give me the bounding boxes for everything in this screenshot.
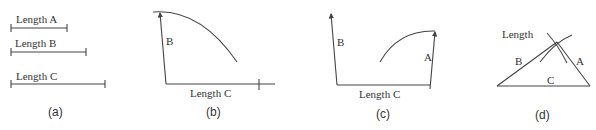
label-a: A [424, 51, 432, 63]
caption-b: (b) [206, 105, 221, 119]
panel-d: Length B C A (d) [497, 28, 590, 122]
caption-d: (d) [535, 108, 550, 122]
label-c: C [547, 74, 554, 86]
segment-length-a: Length A [11, 13, 67, 32]
label-b: B [337, 36, 344, 48]
label-length-b: Length B [15, 37, 56, 49]
side-b-line [160, 13, 166, 84]
label-length-a: Length A [16, 13, 57, 25]
panel-a: Length A Length B Length C (a) [11, 13, 105, 119]
triangle-construction-diagram: Length A Length B Length C (a) B Length … [0, 0, 596, 130]
label-length: Length [502, 28, 534, 40]
segment-length-b: Length B [11, 37, 86, 56]
panel-b: B Length C (b) [153, 12, 275, 119]
label-length-c: Length C [16, 70, 57, 82]
caption-c: (c) [376, 107, 390, 121]
arc-b [540, 35, 572, 62]
side-a-line [557, 42, 590, 86]
side-b-line [331, 14, 337, 85]
label-b: B [166, 35, 173, 47]
label-b: B [515, 55, 522, 67]
panel-c: B A Length C (c) [331, 14, 435, 121]
label-base-c: Length C [190, 87, 231, 99]
label-a: A [576, 55, 584, 67]
arc-a [547, 33, 567, 63]
segment-length-c: Length C [11, 70, 105, 88]
caption-a: (a) [48, 105, 63, 119]
label-base-c: Length C [359, 88, 400, 100]
